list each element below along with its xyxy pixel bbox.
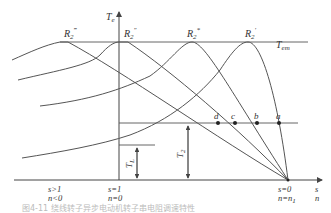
curve-r2-star [40,42,288,180]
label-point-d: d [214,111,219,121]
label-tem: Tem [276,39,290,52]
svg-text:T2: T2 [175,149,187,158]
torque-speed-diagram: Te R2‴ R2″ R2* R2′ Tem d c b a T2 TL s>1… [0,0,331,213]
tick-n-eq-0: n=0 [108,193,123,203]
label-r2-star: R2* [186,26,201,41]
label-r2-prime: R2′ [244,26,257,41]
figure-caption: 图4-11 绕线转子异步电动机转子串电阻调速特性 [22,203,195,213]
tick-n-eq-n1: n=n1 [278,193,296,205]
y-axis-label: Te [106,11,115,24]
label-point-a: a [276,111,281,121]
label-r2-double-prime: R2″ [123,26,137,41]
label-r2-triple-prime: R2‴ [63,26,78,41]
label-point-c: c [231,111,235,121]
synchronous-point [287,179,290,182]
point-a [277,121,281,125]
label-point-b: b [254,111,259,121]
curve-r2-triple-prime [12,42,288,180]
x-axis-label-n: n [315,193,319,203]
curve-r2-double-prime [18,42,288,180]
svg-text:TL: TL [124,159,136,168]
point-b [255,121,259,125]
point-c [233,121,237,125]
label-tl: TL [124,159,136,168]
label-t2: T2 [175,149,187,158]
curve-r2-prime [22,42,288,180]
tick-n-lt-0: n<0 [48,193,63,203]
point-d [216,121,220,125]
